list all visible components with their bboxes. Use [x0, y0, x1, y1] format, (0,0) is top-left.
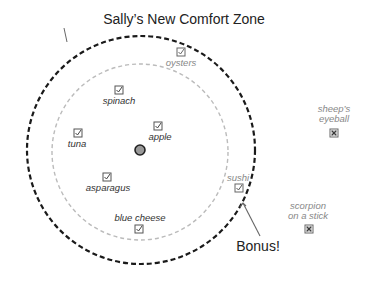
- checkbox-rejected-icon: [330, 129, 339, 138]
- bonus-callout: Bonus!: [236, 239, 280, 254]
- item-label-oysters: oysters: [166, 58, 197, 68]
- item-label-blue-cheese: blue cheese: [114, 213, 165, 223]
- checkbox-checked-icon: [115, 86, 124, 95]
- checkbox-checked-icon: [103, 173, 112, 182]
- item-label-apple: apple: [148, 132, 171, 142]
- item-label-asparagus: asparagus: [86, 183, 130, 193]
- item-label-sheeps-eyeball: sheep’s eyeball: [318, 104, 351, 125]
- item-label-spinach: spinach: [103, 96, 136, 106]
- checkbox-checked-icon: [177, 48, 186, 57]
- checkbox-checked-icon: [135, 225, 144, 234]
- checkbox-checked-icon: [154, 122, 163, 131]
- item-label-tuna: tuna: [68, 139, 87, 149]
- checkbox-rejected-icon: [305, 225, 314, 234]
- item-label-line: eyeball: [318, 114, 351, 124]
- center-dot: [135, 145, 145, 155]
- item-label-line: on a stick: [288, 211, 328, 221]
- item-label-scorpion-on-a-stick: scorpion on a stick: [288, 201, 328, 222]
- diagram-canvas: [0, 0, 366, 290]
- diagram-title: Sally’s New Comfort Zone: [103, 12, 265, 27]
- item-label-sushi: sushi: [227, 173, 249, 183]
- comfort-zone-diagram: Sally’s New Comfort Zone Bonus! oysters …: [0, 0, 366, 290]
- title-pointer-line: [64, 28, 67, 42]
- bonus-arrow-line: [243, 203, 260, 236]
- checkbox-checked-icon: [74, 129, 83, 138]
- checkbox-checked-icon: [235, 184, 244, 193]
